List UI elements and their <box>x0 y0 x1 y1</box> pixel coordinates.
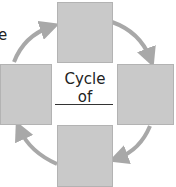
center-blank-line <box>55 104 113 105</box>
box-right <box>117 64 174 125</box>
cycle-diagram: e Cycle of <box>0 0 176 187</box>
partial-text: e <box>0 26 7 44</box>
box-top <box>57 2 113 63</box>
arrow-bottom-to-left <box>20 130 57 164</box>
arrow-right-to-bottom <box>118 126 150 158</box>
box-bottom <box>57 125 113 187</box>
center-label: Cycle of <box>55 70 115 106</box>
arrow-left-to-top <box>14 27 50 62</box>
arrow-top-to-right <box>112 22 150 58</box>
box-left <box>0 64 52 125</box>
